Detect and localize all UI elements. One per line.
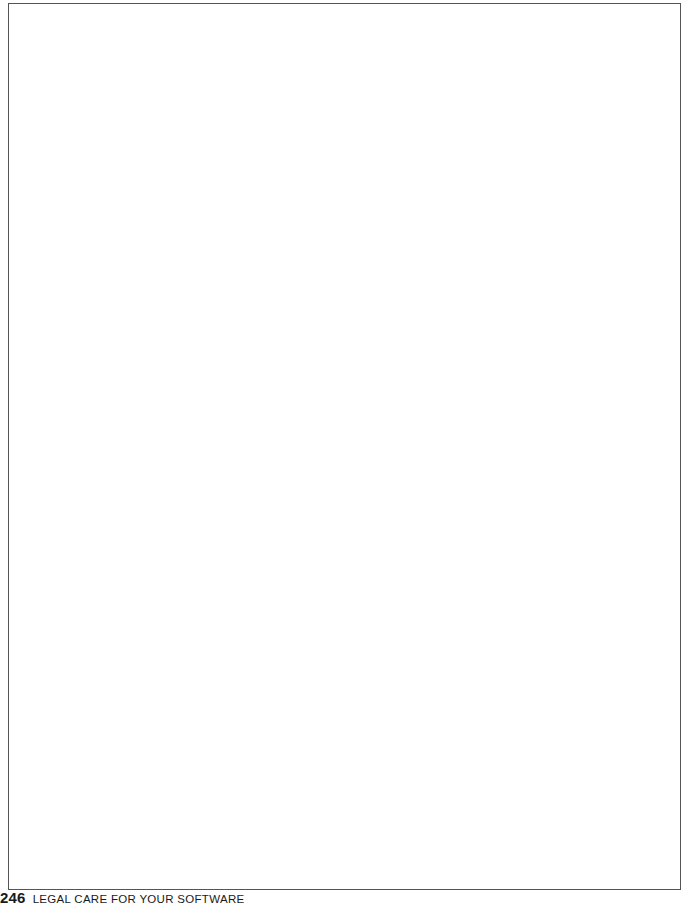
page-number: 246 [0,891,26,905]
running-head: LEGAL CARE FOR YOUR SOFTWARE [33,892,245,906]
blank-form-frame [8,3,681,890]
page-footer: 246 LEGAL CARE FOR YOUR SOFTWARE [0,891,244,905]
